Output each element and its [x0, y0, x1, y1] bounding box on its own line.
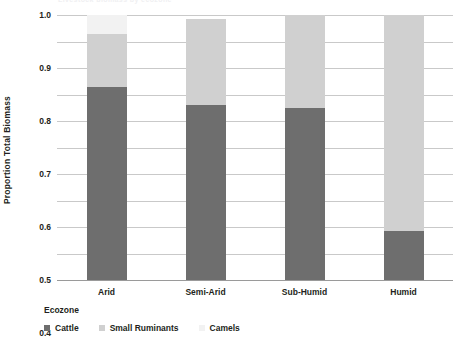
bar-stack — [186, 15, 226, 280]
legend-swatch-icon — [199, 325, 205, 331]
legend-label: Camels — [210, 323, 240, 333]
x-axis-tick-label: Sub-Humid — [250, 287, 360, 297]
bar-group[interactable]: Semi-Arid — [186, 15, 226, 280]
legend-item-cattle[interactable]: Cattle — [44, 323, 79, 333]
bar-segment-small-ruminants[interactable] — [87, 34, 127, 87]
bar-segment-small-ruminants[interactable] — [186, 19, 226, 105]
y-axis-tick-label: 0.9 — [39, 63, 51, 73]
clipped-chart-title: Livestock biomass by ecozone — [58, 0, 172, 3]
bar-segment-camels[interactable] — [87, 15, 127, 34]
chart-legend: CattleSmall RuminantsCamels — [44, 323, 260, 333]
legend-item-camels[interactable]: Camels — [199, 323, 240, 333]
bar-stack — [384, 15, 424, 280]
bar-group[interactable]: Sub-Humid — [285, 15, 325, 280]
legend-swatch-icon — [99, 325, 105, 331]
stacked-bar-chart: Livestock biomass by ecozone Proportion … — [0, 0, 469, 349]
bar-segment-cattle[interactable] — [186, 105, 226, 280]
plot-area: 1.00.90.80.70.60.50.40.30.20.10 AridSemi… — [57, 15, 453, 280]
bar-segment-small-ruminants[interactable] — [384, 15, 424, 231]
y-axis-tick-label: 0.5 — [39, 275, 51, 285]
legend-label: Small Ruminants — [110, 323, 179, 333]
y-axis-tick-label: 0.6 — [39, 222, 51, 232]
x-axis-tick-label: Humid — [349, 287, 459, 297]
bars-layer: AridSemi-AridSub-HumidHumid — [57, 15, 453, 280]
x-axis-line: 0 — [57, 280, 453, 281]
bar-stack — [285, 15, 325, 280]
bar-segment-cattle[interactable] — [384, 231, 424, 280]
bar-segment-cattle[interactable] — [87, 87, 127, 280]
y-axis-title: Proportion Total Biomass — [2, 96, 12, 204]
legend-label: Cattle — [55, 323, 79, 333]
y-axis-tick-label: 1.0 — [39, 10, 51, 20]
bar-stack — [87, 15, 127, 280]
y-axis-tick-label: 0.8 — [39, 116, 51, 126]
x-axis-tick-label: Arid — [52, 287, 162, 297]
bar-group[interactable]: Humid — [384, 15, 424, 280]
bar-group[interactable]: Arid — [87, 15, 127, 280]
legend-item-small-ruminants[interactable]: Small Ruminants — [99, 323, 179, 333]
x-axis-tick-label: Semi-Arid — [151, 287, 261, 297]
x-axis-title: Ecozone — [44, 305, 79, 315]
bar-segment-small-ruminants[interactable] — [285, 15, 325, 108]
bar-segment-cattle[interactable] — [285, 108, 325, 280]
legend-swatch-icon — [44, 325, 50, 331]
y-axis-tick-label: 0.7 — [39, 169, 51, 179]
